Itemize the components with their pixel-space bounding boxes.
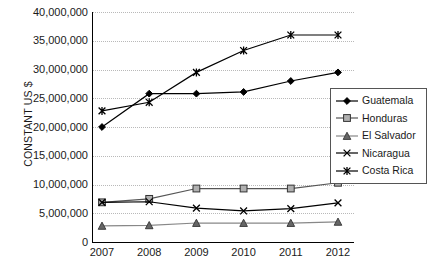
x-tick-label: 2009 bbox=[172, 247, 220, 258]
y-tick-label: 35,000,000 bbox=[4, 35, 88, 46]
legend-item-guatemala[interactable]: Guatemala bbox=[334, 92, 424, 110]
legend-item-honduras[interactable]: Honduras bbox=[334, 110, 424, 128]
series-line-el-salvador bbox=[102, 222, 338, 226]
legend-label: Guatemala bbox=[360, 95, 413, 106]
y-tick-label: 25,000,000 bbox=[4, 93, 88, 104]
legend-item-costa-rica[interactable]: Costa Rica bbox=[334, 162, 424, 180]
legend-label: Nicaragua bbox=[360, 148, 410, 159]
data-point-square bbox=[193, 185, 200, 192]
y-tick-label: 20,000,000 bbox=[4, 122, 88, 133]
x-tick-label: 2007 bbox=[78, 247, 126, 258]
plot-area bbox=[92, 12, 354, 243]
diamond-marker-icon bbox=[334, 94, 360, 108]
data-point-diamond bbox=[287, 78, 294, 85]
data-point-square bbox=[344, 115, 351, 122]
square-marker-icon bbox=[334, 111, 360, 125]
series-layer bbox=[92, 12, 354, 243]
line-chart: CONSTANT US $ 40,000,00035,000,00030,000… bbox=[0, 0, 430, 277]
y-tick-label: 0 bbox=[4, 237, 88, 248]
y-tick-label: 15,000,000 bbox=[4, 150, 88, 161]
data-point-square bbox=[287, 185, 294, 192]
y-tick-label: 30,000,000 bbox=[4, 64, 88, 75]
x-tick-label: 2008 bbox=[125, 247, 173, 258]
data-point-asterisk bbox=[193, 68, 200, 76]
legend-item-el-salvador[interactable]: El Salvador bbox=[334, 127, 424, 145]
asterisk-marker-icon bbox=[334, 164, 360, 178]
series-line-honduras bbox=[102, 183, 338, 203]
x-tick-label: 2012 bbox=[314, 247, 362, 258]
x-marker-icon bbox=[334, 146, 360, 160]
legend-item-nicaragua[interactable]: Nicaragua bbox=[334, 145, 424, 163]
data-point-diamond bbox=[344, 97, 351, 104]
legend-label: Honduras bbox=[360, 113, 408, 124]
y-tick-label: 40,000,000 bbox=[4, 7, 88, 18]
data-point-diamond bbox=[193, 90, 200, 97]
data-point-diamond bbox=[240, 89, 247, 96]
series-line-costa-rica bbox=[102, 35, 338, 111]
x-tick-label: 2011 bbox=[267, 247, 315, 258]
legend: GuatemalaHondurasEl SalvadorNicaraguaCos… bbox=[330, 88, 427, 184]
legend-label: Costa Rica bbox=[360, 165, 413, 176]
y-tick-label: 10,000,000 bbox=[4, 179, 88, 190]
series-line-nicaragua bbox=[102, 202, 338, 211]
data-point-asterisk bbox=[240, 47, 247, 55]
x-tick-label: 2010 bbox=[220, 247, 268, 258]
y-tick-label: 5,000,000 bbox=[4, 208, 88, 219]
x-axis-tick-labels: 200720082009201020112012 bbox=[92, 247, 354, 267]
series-line-guatemala bbox=[102, 72, 338, 127]
data-point-square bbox=[240, 185, 247, 192]
y-axis-tick-labels: 40,000,00035,000,00030,000,00025,000,000… bbox=[0, 0, 88, 277]
triangle-marker-icon bbox=[334, 129, 360, 143]
data-point-diamond bbox=[335, 69, 342, 76]
legend-label: El Salvador bbox=[360, 130, 416, 141]
